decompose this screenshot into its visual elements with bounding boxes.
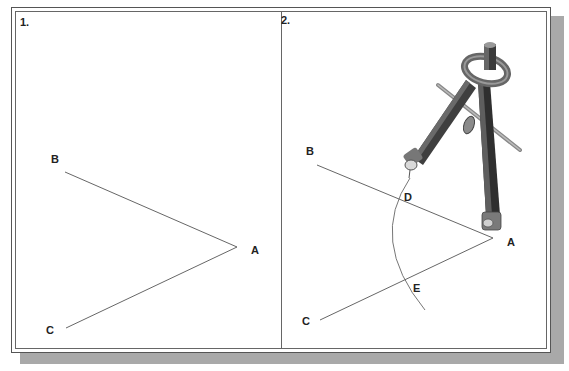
- ray-ac-panel-2: [320, 238, 493, 320]
- point-label-a-panel-1: A: [251, 244, 259, 256]
- panel-number-1: 1.: [20, 16, 29, 28]
- ray-ab-panel-1: [65, 172, 237, 247]
- point-label-c-panel-2: C: [302, 315, 310, 327]
- point-label-c-panel-1: C: [46, 324, 54, 336]
- panel-number-2: 2.: [281, 14, 290, 26]
- ray-ac-panel-1: [66, 247, 237, 328]
- point-label-b-panel-2: B: [306, 145, 314, 157]
- point-label-a-panel-2: A: [507, 236, 515, 248]
- panel-2-lines: [317, 165, 493, 320]
- geometry-canvas: [0, 0, 569, 371]
- compass-icon: [402, 42, 520, 230]
- point-label-d: D: [404, 191, 412, 203]
- point-label-b-panel-1: B: [51, 153, 59, 165]
- panel-1-lines: [65, 172, 237, 328]
- point-label-e: E: [413, 282, 420, 294]
